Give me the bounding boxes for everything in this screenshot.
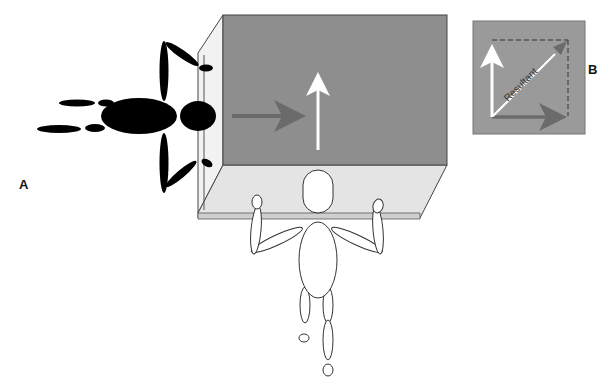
left-person <box>37 39 216 193</box>
box-front-face <box>223 15 447 165</box>
panel-label-b: B <box>588 62 597 77</box>
resultant-inset: Resultant <box>473 21 585 134</box>
box-rim <box>198 213 420 219</box>
panel-label-a: A <box>19 177 28 192</box>
force-diagram: Resultant <box>0 0 610 387</box>
